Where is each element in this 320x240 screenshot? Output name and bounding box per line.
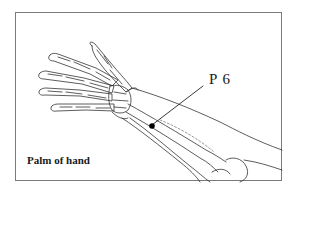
acupoint-label: P 6 <box>209 72 231 87</box>
radius-bone <box>126 104 226 172</box>
acupoint-leader-line <box>152 86 203 125</box>
upper-arm-outline <box>244 160 282 170</box>
little-finger-outline <box>51 104 114 111</box>
ulna-bone <box>130 118 210 182</box>
figure-caption: Palm of hand <box>27 155 90 166</box>
elbow-joint <box>212 158 248 182</box>
acupoint-p6-marker <box>149 123 155 129</box>
